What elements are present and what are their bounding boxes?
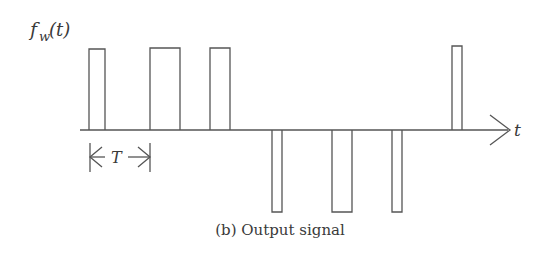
pulse-train [89,46,462,212]
period-label: T [111,148,123,167]
x-axis-label: t [514,120,521,140]
figure-output-signal: T t f w (t) (b) Output signal [0,0,560,258]
positive-pulse [452,46,462,130]
positive-pulse [210,48,230,130]
negative-pulse [272,130,282,212]
negative-pulse [392,130,402,212]
signal-plot: T t f w (t) [0,0,560,258]
positive-pulse [150,48,180,130]
figure-caption: (b) Output signal [0,221,560,239]
y-axis-label-argument: (t) [49,19,70,40]
negative-pulse [332,130,352,212]
positive-pulse [89,49,105,130]
